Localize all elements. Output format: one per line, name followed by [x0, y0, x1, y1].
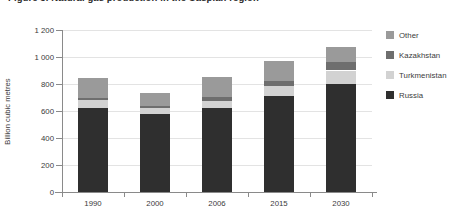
legend-item-kazakhstan[interactable]: Kazakhstan — [386, 45, 461, 65]
legend-item-turkmenistan[interactable]: Turkmenistan — [386, 65, 461, 85]
plot-area — [62, 30, 372, 192]
chart-title-cropped: Figure 3. Natural gas production in the … — [0, 0, 461, 7]
y-axis-tick-label: 0 — [14, 188, 54, 197]
legend-label: Turkmenistan — [399, 71, 447, 80]
x-axis-tick — [186, 192, 187, 197]
legend-swatch-icon — [386, 31, 394, 39]
bar-segment-kazakhstan[interactable] — [326, 62, 356, 70]
bar-segment-other[interactable] — [202, 77, 232, 97]
x-axis-tick-label: 2006 — [187, 199, 247, 208]
bar-stack[interactable] — [140, 30, 170, 192]
bar-segment-turkmenistan[interactable] — [264, 86, 294, 96]
legend-swatch-icon — [386, 51, 394, 59]
legend-label: Russia — [399, 91, 423, 100]
legend-item-other[interactable]: Other — [386, 25, 461, 45]
bar-segment-russia[interactable] — [326, 84, 356, 192]
bar-segment-other[interactable] — [78, 78, 108, 98]
chart-figure: Figure 3. Natural gas production in the … — [0, 0, 461, 212]
x-axis-tick-label: 2000 — [125, 199, 185, 208]
chart-title: Figure 3. Natural gas production in the … — [8, 0, 259, 3]
bar-segment-kazakhstan[interactable] — [78, 98, 108, 100]
x-axis-tick — [248, 192, 249, 197]
y-axis-tick-label: 1 000 — [14, 53, 54, 62]
bar-stack[interactable] — [326, 30, 356, 192]
bar-segment-russia[interactable] — [140, 114, 170, 192]
bar-stack[interactable] — [78, 30, 108, 192]
y-axis-title: Billion cubic metres — [0, 34, 14, 189]
bar-segment-turkmenistan[interactable] — [78, 100, 108, 108]
legend: OtherKazakhstanTurkmenistanRussia — [386, 25, 461, 105]
y-axis-tick-label: 800 — [14, 80, 54, 89]
bar-segment-russia[interactable] — [264, 96, 294, 192]
y-axis-tick-label: 1 200 — [14, 26, 54, 35]
x-axis-tick-label: 1990 — [63, 199, 123, 208]
bar-segment-other[interactable] — [264, 61, 294, 81]
legend-swatch-icon — [386, 71, 394, 79]
y-axis-tick-label: 400 — [14, 134, 54, 143]
legend-swatch-icon — [386, 91, 394, 99]
bar-stack[interactable] — [264, 30, 294, 192]
y-axis-tick-label: 600 — [14, 107, 54, 116]
bar-segment-other[interactable] — [140, 93, 170, 105]
bar-stack[interactable] — [202, 30, 232, 192]
bar-segment-kazakhstan[interactable] — [264, 81, 294, 86]
legend-label: Other — [399, 31, 419, 40]
bar-segment-russia[interactable] — [202, 108, 232, 192]
y-axis-line — [62, 30, 63, 193]
y-axis-tick-label: 200 — [14, 161, 54, 170]
x-axis-tick-label: 2015 — [249, 199, 309, 208]
x-axis-tick-label: 2030 — [311, 199, 371, 208]
y-axis-title-text: Billion cubic metres — [3, 78, 12, 144]
x-axis-tick — [310, 192, 311, 197]
bar-segment-kazakhstan[interactable] — [140, 106, 170, 108]
x-axis-tick — [62, 192, 63, 197]
x-axis-tick — [124, 192, 125, 197]
bar-segment-turkmenistan[interactable] — [326, 71, 356, 85]
bar-segment-turkmenistan[interactable] — [202, 101, 232, 108]
bar-segment-other[interactable] — [326, 47, 356, 63]
x-axis-tick — [372, 192, 373, 197]
legend-label: Kazakhstan — [399, 51, 440, 60]
bar-segment-russia[interactable] — [78, 108, 108, 192]
bar-segment-kazakhstan[interactable] — [202, 97, 232, 101]
bar-segment-turkmenistan[interactable] — [140, 108, 170, 114]
legend-item-russia[interactable]: Russia — [386, 85, 461, 105]
x-axis-line — [55, 192, 377, 193]
